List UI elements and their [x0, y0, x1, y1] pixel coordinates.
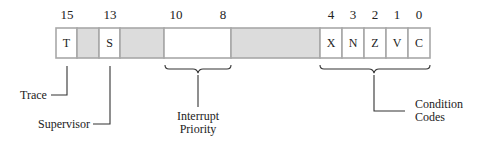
interrupt-label-line2: Priority [180, 122, 217, 136]
supervisor-label: Supervisor [38, 117, 90, 131]
trace-bit-text: T [63, 36, 71, 50]
status-register-diagram: 15 13 10 8 4 3 2 1 0 T S X N Z V C Trace [0, 0, 478, 148]
interrupt-label-line1: Interrupt [177, 109, 220, 123]
bit-number-8: 8 [220, 7, 227, 22]
condition-codes-callout: Condition Codes [320, 65, 463, 124]
trace-leader-line [51, 66, 67, 95]
condition-codes-label-line1: Condition [415, 97, 463, 111]
unused-bits-7-5-cell [231, 28, 320, 58]
interrupt-priority-callout: Interrupt Priority [165, 65, 231, 136]
overflow-bit-text: V [393, 36, 402, 50]
carry-bit-text: C [415, 36, 423, 50]
condition-codes-label-line2: Codes [415, 110, 445, 124]
bit-number-1: 1 [394, 7, 401, 22]
supervisor-callout: Supervisor [38, 66, 110, 131]
trace-label: Trace [20, 88, 47, 102]
interrupt-brace [165, 65, 231, 73]
zero-bit-text: Z [371, 36, 378, 50]
trace-callout: Trace [20, 66, 67, 102]
unused-bit-14-cell [77, 28, 99, 58]
bit-number-10: 10 [170, 7, 183, 22]
bit-number-2: 2 [372, 7, 379, 22]
register-row: T S X N Z V C [56, 28, 430, 58]
condition-codes-brace [320, 65, 430, 73]
extend-bit-text: X [327, 36, 336, 50]
bit-number-0: 0 [416, 7, 423, 22]
bit-number-15: 15 [61, 7, 74, 22]
bit-number-row: 15 13 10 8 4 3 2 1 0 [61, 7, 423, 22]
bit-number-3: 3 [350, 7, 357, 22]
condition-codes-leader-line [374, 75, 405, 111]
bit-number-13: 13 [104, 7, 117, 22]
interrupt-priority-cell [164, 28, 231, 58]
supervisor-bit-text: S [106, 36, 113, 50]
negative-bit-text: N [349, 36, 358, 50]
unused-bits-12-11-cell [120, 28, 164, 58]
supervisor-leader-line [93, 66, 110, 124]
bit-number-4: 4 [328, 7, 335, 22]
